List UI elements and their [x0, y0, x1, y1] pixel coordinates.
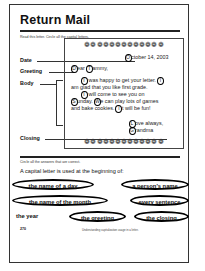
option-the-closing[interactable]: the closing	[134, 211, 189, 222]
page-number: 270	[20, 227, 26, 231]
letter-body-line-5: and bake cookies. It will be fun!	[71, 105, 150, 113]
label-closing: Closing	[20, 135, 40, 141]
circled-capital[interactable]: I	[157, 77, 164, 85]
option-persons-name[interactable]: a person's name	[121, 179, 189, 190]
page-title: Return Mail	[20, 13, 90, 27]
flower-border-bottom: ❁❁❁❁❁❁❁❁❁❁❁❁❁	[68, 138, 180, 146]
label-greeting: Greeting	[20, 68, 42, 74]
worksheet-page: Return Mail Read this letter. Circle all…	[9, 4, 189, 263]
title-divider	[20, 30, 180, 32]
question-text: A capital letter is used at the beginnin…	[20, 168, 124, 174]
instruction-circle-answers: Circle all the answers that are correct.	[20, 160, 80, 164]
option-the-year[interactable]: the year	[16, 211, 50, 222]
letter-body-line-2: am glad that you like first grade.	[71, 84, 147, 91]
letter-box: ❁❁❁❁❁❁❁❁❁❁❁❁❁ October 14, 2003 Dear Tamm…	[64, 38, 184, 149]
letter-greeting: Dear Tammy,	[71, 65, 108, 73]
section-divider	[20, 156, 180, 158]
letter-date: October 14, 2003	[125, 54, 168, 62]
option-name-of-day[interactable]: the name of a day	[12, 179, 94, 190]
label-body: Body	[20, 80, 33, 86]
flower-border-top: ❁❁❁❁❁❁❁❁❁❁❁❁❁	[68, 41, 180, 49]
option-every-sentence[interactable]: every sentence	[130, 195, 189, 206]
option-name-of-month[interactable]: the name of the month	[12, 195, 108, 206]
letter-closing-line-2: Grandma	[129, 127, 153, 135]
body-bracket	[56, 80, 63, 126]
option-the-greeting[interactable]: the greeting	[69, 211, 126, 222]
body-leader-line	[40, 84, 56, 85]
footer-caption: Understanding capitalization usage in a …	[82, 228, 138, 232]
label-date: Date	[20, 57, 32, 63]
